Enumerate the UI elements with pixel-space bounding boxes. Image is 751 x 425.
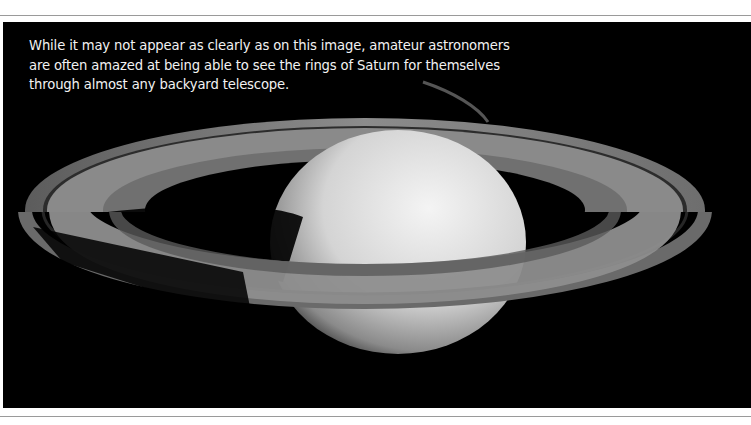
caption: While it may not appear as clearly as on… bbox=[29, 36, 499, 95]
bottom-divider bbox=[0, 416, 751, 417]
top-divider bbox=[0, 15, 751, 16]
caption-line-1: While it may not appear as clearly as on… bbox=[29, 36, 499, 56]
caption-line-3: through almost any backyard telescope. bbox=[29, 75, 499, 95]
saturn-photo: While it may not appear as clearly as on… bbox=[3, 22, 751, 408]
caption-line-2: are often amazed at being able to see th… bbox=[29, 56, 499, 76]
